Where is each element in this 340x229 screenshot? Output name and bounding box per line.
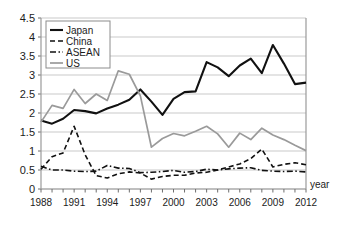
x-axis-tick-label: 2006 [229, 197, 252, 208]
x-axis-tick-label: 2012 [295, 197, 318, 208]
series-line-asean [41, 165, 306, 172]
y-axis-tick-label: 4 [29, 31, 35, 43]
y-axis-tick-label: 2 [29, 107, 35, 119]
legend-label-asean: ASEAN [66, 47, 100, 58]
chart-canvas: 00.511.522.533.544.519881991199419972000… [0, 0, 340, 229]
y-axis-tick-label: 0.5 [20, 164, 35, 176]
line-chart: 00.511.522.533.544.519881991199419972000… [0, 0, 340, 229]
x-axis-tick-label: 2009 [262, 197, 285, 208]
x-axis-caption: year [310, 179, 330, 190]
legend-label-japan: Japan [66, 25, 93, 36]
y-axis-tick-label: 2.5 [20, 88, 35, 100]
x-axis-tick-label: 1994 [96, 197, 119, 208]
x-axis-tick-label: 1991 [63, 197, 86, 208]
legend-label-us: US [66, 58, 80, 69]
x-axis-tick-label: 2000 [162, 197, 185, 208]
y-axis-tick-label: 1 [29, 145, 35, 157]
y-axis-tick-label: 3 [29, 69, 35, 81]
legend-label-china: China [66, 36, 93, 47]
y-axis-tick-label: 1.5 [20, 126, 35, 138]
x-axis-tick-label: 1997 [129, 197, 152, 208]
x-axis-tick-label: 1988 [30, 197, 53, 208]
y-axis-tick-label: 3.5 [20, 50, 35, 62]
y-axis-tick-label: 0 [29, 183, 35, 195]
x-axis-tick-label: 2003 [196, 197, 219, 208]
y-axis-tick-label: 4.5 [20, 12, 35, 24]
